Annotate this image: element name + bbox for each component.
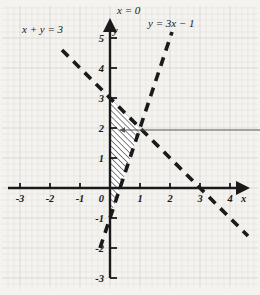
y-tick-label-1: 1 xyxy=(99,153,104,164)
origin-label: 0 xyxy=(99,193,105,204)
x-axis-label: x xyxy=(240,193,246,204)
y-tick-label--1: -1 xyxy=(95,213,104,224)
x-tick-label--3: -3 xyxy=(16,193,25,204)
x-tick-label-3: 3 xyxy=(196,193,202,204)
y-tick-label-5: 5 xyxy=(99,33,104,44)
y-tick-label-4: 4 xyxy=(98,63,104,74)
coordinate-plane-svg: -3 -2 -1 1 2 3 4 5 4 3 2 1 -1 -2 -3 0 y … xyxy=(0,0,260,295)
y-axis-label: y xyxy=(111,25,118,36)
y-tick-label-3: 3 xyxy=(98,93,104,104)
x-tick-label--1: -1 xyxy=(76,193,85,204)
graph-figure: -3 -2 -1 1 2 3 4 5 4 3 2 1 -1 -2 -3 0 y … xyxy=(0,0,260,295)
x-tick-label--2: -2 xyxy=(46,193,55,204)
y-tick-label-2: 2 xyxy=(98,123,105,134)
x-tick-label-4: 4 xyxy=(226,193,232,204)
equation-label-y-equals-3x-minus-1: y = 3x − 1 xyxy=(147,17,195,29)
x-tick-label-2: 2 xyxy=(166,193,173,204)
y-tick-label--2: -2 xyxy=(95,243,104,254)
x-tick-label-1: 1 xyxy=(137,193,142,204)
equation-label-x-plus-y: x + y = 3 xyxy=(21,23,64,35)
equation-label-x-equals-0: x = 0 xyxy=(116,4,141,16)
page-bottom-fade xyxy=(0,282,260,295)
